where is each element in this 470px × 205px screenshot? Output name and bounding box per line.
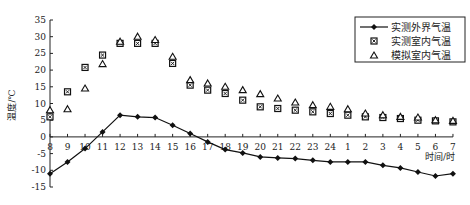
data-point — [100, 52, 106, 58]
data-point — [65, 89, 71, 95]
data-point — [327, 111, 333, 117]
y-axis: 35302520151050-5-10-15 — [32, 15, 54, 192]
data-point — [345, 112, 351, 118]
data-point — [170, 122, 176, 128]
data-point — [135, 40, 141, 46]
y-tick-label: 25 — [35, 48, 47, 58]
x-tick-label: 14 — [149, 142, 161, 152]
y-tick-label: 20 — [35, 65, 47, 75]
data-point — [327, 159, 333, 165]
data-point — [152, 115, 158, 121]
data-point — [327, 103, 334, 109]
y-tick-label: 10 — [35, 99, 47, 109]
data-point — [450, 171, 456, 177]
data-point — [187, 77, 194, 83]
x-tick-label: 13 — [132, 142, 144, 152]
data-point — [205, 87, 211, 93]
data-point — [152, 37, 159, 43]
legend: 实测外界气温 实测室内气温 模拟室内气温 — [355, 17, 465, 62]
data-point — [134, 33, 141, 39]
x-tick-label: 1 — [345, 142, 351, 152]
x-tick-label: 5 — [415, 142, 421, 152]
data-point — [380, 162, 386, 168]
y-tick-label: 35 — [35, 15, 47, 25]
data-point — [292, 107, 298, 113]
x-tick-label: 16 — [184, 142, 196, 152]
x-tick-label: 11 — [97, 142, 108, 152]
data-point — [275, 106, 281, 112]
data-point — [187, 131, 193, 137]
x-tick-label: 2 — [362, 142, 368, 152]
x-tick-label: 12 — [114, 142, 125, 152]
data-point — [292, 156, 298, 162]
data-point — [345, 159, 351, 165]
data-point — [47, 107, 54, 113]
data-point — [257, 154, 263, 160]
x-tick-label: 4 — [398, 142, 404, 152]
boxed-x-square-icon — [371, 38, 377, 44]
x-tick-label: 22 — [290, 142, 301, 152]
data-point — [169, 53, 176, 59]
data-point — [47, 114, 53, 120]
data-point — [362, 159, 368, 165]
data-point — [82, 85, 89, 91]
data-point — [222, 90, 228, 96]
data-point — [274, 95, 281, 101]
legend-label: 实测室内气温 — [391, 35, 451, 47]
data-point — [344, 106, 351, 112]
x-tick-label: 15 — [167, 142, 179, 152]
x-tick-label: 23 — [307, 142, 319, 152]
data-point — [239, 87, 246, 93]
data-point — [64, 106, 71, 112]
x-tick-label: 7 — [450, 142, 456, 152]
data-point — [309, 102, 316, 108]
x-tick-label: 8 — [47, 142, 53, 152]
x-axis-label: 时间/时 — [425, 151, 455, 162]
data-point — [415, 169, 421, 175]
series-0 — [47, 112, 456, 179]
y-tick-label: 5 — [40, 115, 46, 125]
x-axis: 891011121314151617181920212223241234567 — [47, 134, 456, 152]
x-tick-label: 6 — [433, 142, 439, 152]
data-point — [204, 80, 211, 86]
x-tick-label: 24 — [325, 142, 337, 152]
temperature-chart: 35302520151050-5-10-15 89101112131415161… — [0, 0, 470, 205]
y-tick-label: -5 — [37, 149, 46, 159]
data-point — [222, 83, 229, 89]
x-tick-label: 20 — [255, 142, 267, 152]
data-point — [397, 165, 403, 171]
data-point — [82, 64, 88, 70]
y-tick-label: 30 — [35, 32, 47, 42]
y-tick-label: -10 — [32, 165, 47, 175]
x-tick-label: 21 — [272, 142, 283, 152]
legend-label: 模拟室内气温 — [391, 49, 451, 61]
data-point — [135, 114, 141, 120]
data-point — [240, 97, 246, 103]
data-point — [257, 91, 264, 97]
data-point — [257, 104, 263, 110]
y-tick-label: 15 — [35, 82, 47, 92]
x-tick-label: 9 — [65, 142, 71, 152]
data-point — [310, 109, 316, 115]
data-point — [310, 157, 316, 163]
y-axis-label: 温度/℃ — [6, 89, 17, 120]
data-point — [292, 99, 299, 105]
data-point — [99, 61, 106, 67]
data-point — [432, 173, 438, 179]
y-tick-label: 0 — [40, 132, 46, 142]
x-tick-label: 3 — [380, 142, 386, 152]
legend-label: 实测外界气温 — [391, 21, 451, 33]
data-point — [362, 110, 369, 116]
y-tick-label: -15 — [32, 182, 47, 192]
data-point — [275, 155, 281, 161]
data-point — [170, 60, 176, 66]
